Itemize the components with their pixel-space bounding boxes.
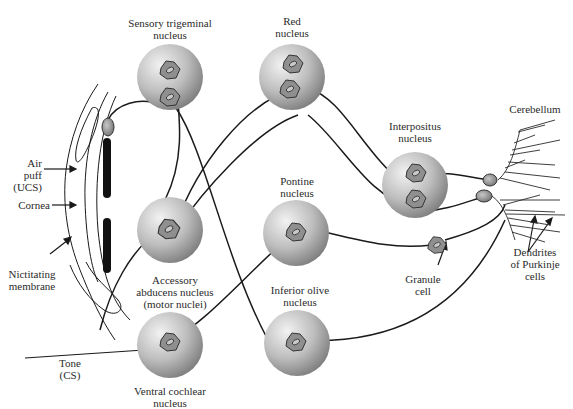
label-line: Granule xyxy=(393,273,453,285)
eyelid-lower-bar xyxy=(103,218,111,273)
label-line: nucleus xyxy=(378,132,452,144)
label-granule-cell: Granule cell xyxy=(393,273,453,297)
label-line: Sensory trigeminal xyxy=(120,17,220,29)
sensory-trigeminal-nucleus xyxy=(137,44,203,110)
label-line: nucleus xyxy=(120,397,220,409)
pontine-nucleus xyxy=(263,200,329,266)
label-line: cell xyxy=(393,285,453,297)
label-line: Air xyxy=(2,157,42,169)
label-air-puff: Air puff (UCS) xyxy=(2,157,42,193)
label-line: nucleus xyxy=(262,187,332,199)
label-line: Pontine xyxy=(262,175,332,187)
accessory-abducens-nucleus xyxy=(137,197,203,263)
trigeminal-ganglion-cell xyxy=(102,118,114,136)
label-line: cells xyxy=(500,270,570,282)
label-line: nucleus xyxy=(120,29,220,41)
label-cornea: Cornea xyxy=(2,199,50,211)
label-pontine: Pontine nucleus xyxy=(262,175,332,199)
label-interpositus: Interpositus nucleus xyxy=(378,120,452,144)
ventral-cochlear-nucleus xyxy=(137,312,203,378)
label-line: Accessory xyxy=(125,274,225,286)
label-line: (CS) xyxy=(50,369,90,381)
label-line: Cerebellum xyxy=(500,103,570,115)
label-nictitating: Nictitating membrane xyxy=(2,268,62,292)
label-ventral-cochlear: Ventral cochlear nucleus xyxy=(120,385,220,409)
red-nucleus xyxy=(259,44,325,110)
label-line: nucleus xyxy=(260,296,340,308)
label-line: of Purkinje xyxy=(500,258,570,270)
label-line: Cornea xyxy=(2,199,50,211)
label-line: Inferior olive xyxy=(260,284,340,296)
label-line: Interpositus xyxy=(378,120,452,132)
deep-nucleus-cell-upper xyxy=(483,174,497,186)
label-line: membrane xyxy=(2,280,62,292)
label-line: Tone xyxy=(50,357,90,369)
eyelid-upper-bar xyxy=(103,138,111,198)
label-line: (UCS) xyxy=(2,181,42,193)
label-line: abducens nucleus xyxy=(125,286,225,298)
label-line: (motor nuclei) xyxy=(125,298,225,310)
eye-structure xyxy=(65,84,130,340)
label-sensory-trigeminal: Sensory trigeminal nucleus xyxy=(120,17,220,41)
label-line: Red xyxy=(262,15,322,27)
label-tone: Tone (CS) xyxy=(50,357,90,381)
label-line: Nictitating xyxy=(2,268,62,280)
label-accessory-abducens: Accessory abducens nucleus (motor nuclei… xyxy=(125,274,225,310)
label-red-nucleus: Red nucleus xyxy=(262,15,322,39)
label-dendrites: Dendrites of Purkinje cells xyxy=(500,246,570,282)
label-line: Ventral cochlear xyxy=(120,385,220,397)
label-line: puff xyxy=(2,169,42,181)
granule-cell-neuron xyxy=(428,237,446,254)
interpositus-nucleus xyxy=(382,152,448,218)
label-cerebellum: Cerebellum xyxy=(500,103,570,115)
deep-nucleus-cell-lower xyxy=(476,190,492,202)
label-inferior-olive: Inferior olive nucleus xyxy=(260,284,340,308)
label-line: Dendrites xyxy=(500,246,570,258)
label-line: nucleus xyxy=(262,27,322,39)
inferior-olive-nucleus xyxy=(264,310,330,376)
